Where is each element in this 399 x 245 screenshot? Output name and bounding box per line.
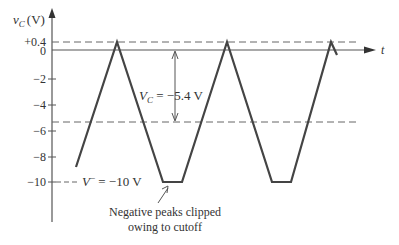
clip-note-line1: Negative peaks clipped	[109, 205, 221, 219]
tick-label-minus-4: −4	[33, 98, 46, 112]
tick-label-minus-6: −6	[33, 124, 46, 138]
waveform-diagram: vC(V) +0.4 0 −2 −4 −6 −8 −10 t VC = −5.4…	[0, 0, 399, 245]
clip-note-line2: owing to cutoff	[128, 220, 202, 234]
clip-annotation-arrow	[158, 188, 168, 203]
waveform-line	[76, 42, 337, 182]
tick-label-0: 0	[40, 44, 46, 58]
diagram-container: vC(V) +0.4 0 −2 −4 −6 −8 −10 t VC = −5.4…	[0, 0, 399, 245]
tick-label-minus-8: −8	[33, 150, 46, 164]
x-axis-arrow-icon	[364, 47, 376, 54]
tick-label-minus-2: −2	[33, 72, 46, 86]
y-axis-arrow-icon	[49, 8, 56, 18]
tick-label-minus-10: −10	[27, 175, 46, 189]
vminus-label: V− = −10 V	[82, 173, 142, 189]
x-axis-label: t	[381, 43, 385, 57]
vc-label: VC = −5.4 V	[139, 88, 203, 105]
y-axis-label: vC(V)	[13, 12, 45, 29]
